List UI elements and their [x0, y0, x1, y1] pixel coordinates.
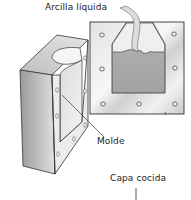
mold-illustration: [0, 0, 191, 200]
mold-plate-right: [90, 6, 184, 115]
hole-icon: [84, 89, 87, 94]
hole-icon: [173, 66, 178, 70]
hole-icon: [84, 56, 87, 61]
hole-icon: [101, 102, 106, 106]
hole-icon: [137, 102, 142, 106]
label-mold: Molde: [97, 136, 125, 146]
mold-diagram: Arcilla líquida Molde Capa cocida: [0, 0, 191, 200]
label-fired-layer: Capa cocida: [110, 173, 166, 183]
hole-icon: [172, 32, 177, 36]
hole-icon: [173, 102, 178, 106]
hole-icon: [56, 114, 59, 119]
hole-icon: [100, 67, 105, 71]
hole-icon: [57, 152, 60, 157]
hole-icon: [100, 33, 105, 37]
hole-icon: [73, 137, 76, 142]
hole-icon: [84, 123, 87, 128]
label-liquid-clay: Arcilla líquida: [45, 2, 107, 12]
hole-icon: [56, 88, 59, 93]
mold-block-left: [20, 35, 88, 174]
